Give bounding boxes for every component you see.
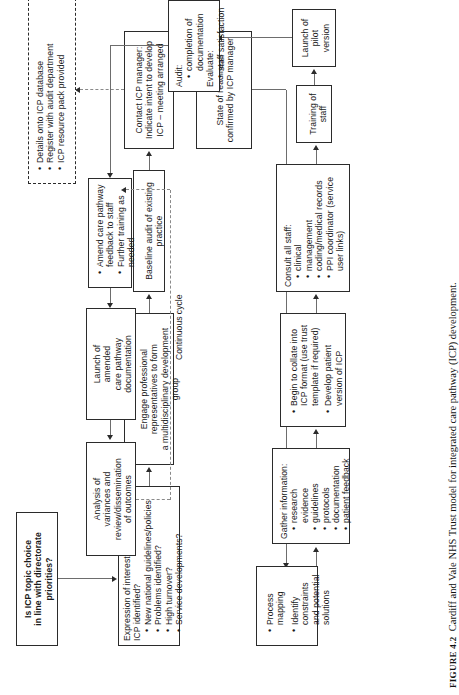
arrowhead-process-to-gather bbox=[313, 547, 319, 552]
connector-engage-to-baseline bbox=[149, 297, 150, 313]
pilot-line2: pilot bbox=[310, 14, 320, 62]
gather-bullets: research evidence guidelines protocols d… bbox=[289, 453, 351, 531]
expression-bullet-0: New national guidelines/policies bbox=[143, 491, 153, 625]
gather-heading: Gather information: bbox=[279, 453, 289, 539]
consult-heading: Consult all staff: bbox=[283, 169, 293, 287]
node-launch-amended-documentation: Launch of amended care pathway documenta… bbox=[86, 308, 136, 420]
gather-bullet-2: protocols bbox=[321, 453, 331, 523]
arrowhead-engage-to-baseline bbox=[146, 294, 152, 299]
icp-database-bullet-0: Details onto ICP database bbox=[35, 3, 45, 163]
connector-launch-amended-to-analysis bbox=[110, 420, 111, 436]
node-analysis-of-variances: Analysis of variances and review/dissemi… bbox=[86, 442, 136, 556]
connector-consult-to-training bbox=[316, 148, 317, 164]
audit-heading: Audit: bbox=[174, 5, 184, 87]
consult-bullets: clinical management coding/medical recor… bbox=[293, 169, 345, 279]
analysis-line2: variances and bbox=[102, 447, 112, 551]
node-amend-care-pathway: Amend care pathway feedback to staff Fur… bbox=[88, 178, 132, 288]
node-is-icp-topic-choice: Is ICP topic choice in line with directo… bbox=[16, 512, 58, 646]
process-mapping-bullet-1: Identify constraints and potential solut… bbox=[290, 571, 332, 625]
audit-bullets-1: completion of documentation bbox=[184, 5, 205, 79]
node-gather-information: Gather information: research evidence gu… bbox=[272, 448, 350, 544]
collate-bullets: Begin to collate into ICP format (use tr… bbox=[289, 318, 344, 414]
arrowhead-baseline-to-contact bbox=[146, 151, 152, 156]
analysis-line3: review/dissemination bbox=[113, 447, 123, 551]
arrowhead-topic-to-expression bbox=[112, 576, 117, 582]
contact-line2: Indicate intent to develop bbox=[144, 36, 154, 144]
gather-bullet-0: research evidence bbox=[289, 453, 310, 523]
figure-caption-text: FIGURE 4.2 Cardiff and Vale NHS Trust mo… bbox=[447, 282, 458, 688]
gather-bullet-4: patient feedback bbox=[341, 453, 351, 523]
node-process-mapping: Process mapping Identify constraints and… bbox=[256, 566, 318, 646]
training-text: Training of staff bbox=[308, 90, 329, 138]
engage-line1: Engage professional representatives to f… bbox=[139, 318, 160, 460]
arrowhead-consult-to-training bbox=[313, 145, 319, 150]
figure-caption-body: Cardiff and Vale NHS Trust model for int… bbox=[447, 282, 458, 631]
collate-bullet-1: Develop patient version of ICP bbox=[323, 318, 344, 406]
consult-bullet-0: clinical bbox=[293, 169, 303, 271]
flowchart: Is ICP topic choice in line with directo… bbox=[0, 0, 420, 660]
expression-bullets: New national guidelines/policies Problem… bbox=[143, 491, 185, 633]
topic-check-line3: priorities? bbox=[44, 517, 54, 641]
process-mapping-bullet-0: Process mapping bbox=[265, 571, 286, 625]
topic-check-line1: Is ICP topic choice bbox=[23, 517, 33, 641]
contact-line1: Contact ICP manager: bbox=[134, 36, 144, 144]
evaluate-bullet-satisfaction: staff satisfaction bbox=[216, 5, 226, 71]
arrowhead-training-to-pilot bbox=[311, 69, 317, 74]
figure-label: FIGURE 4.2 bbox=[448, 636, 458, 688]
expression-bullet-3: Service developments? bbox=[174, 491, 184, 625]
contact-line3: ICP – meeting arranged bbox=[155, 36, 165, 144]
consult-bullet-3: PPI coordinator (service user links) bbox=[325, 169, 346, 271]
consult-bullet-1: management bbox=[304, 169, 314, 271]
baseline-audit-text: Baseline audit of existing practice bbox=[144, 175, 165, 287]
analysis-line1: Analysis of bbox=[92, 447, 102, 551]
icp-database-bullets: Details onto ICP database Register with … bbox=[35, 3, 66, 171]
node-audit-evaluate: Audit: completion of documentation Evalu… bbox=[168, 0, 220, 92]
icp-database-bullet-2: ICP resource pack provided bbox=[56, 3, 66, 163]
gather-bullet-1: guidelines bbox=[310, 453, 320, 523]
amend-bullet-1: Further training as needed bbox=[116, 183, 137, 267]
connector-expression-to-engage bbox=[149, 470, 150, 486]
node-consult-all-staff: Consult all staff: clinical management c… bbox=[276, 164, 350, 292]
connector-audit-to-amend bbox=[110, 46, 111, 174]
consult-bullet-2: coding/medical records bbox=[314, 169, 324, 271]
evaluate-heading: Evaluate: bbox=[205, 5, 215, 87]
analysis-line4: of outcomes bbox=[123, 447, 133, 551]
node-icp-database: Details onto ICP database Register with … bbox=[28, 0, 76, 184]
arrowhead-gather-to-collate bbox=[313, 429, 319, 434]
amend-bullets: Amend care pathway feedback to staff Fur… bbox=[95, 183, 137, 275]
launch-amended-line2: amended bbox=[102, 313, 112, 415]
flowchart-canvas: Is ICP topic choice in line with directo… bbox=[0, 0, 420, 660]
connector-contact-to-database bbox=[80, 89, 124, 90]
connector-gather-to-collate bbox=[316, 432, 317, 448]
amend-bullet-0: Amend care pathway feedback to staff bbox=[95, 183, 116, 267]
connector-pilot-to-audit bbox=[222, 37, 292, 38]
audit-bullets-2: staff satisfaction bbox=[216, 5, 226, 79]
connector-collate-to-consult bbox=[316, 297, 317, 313]
connector-state-down bbox=[252, 89, 286, 90]
connector-audit-up bbox=[110, 45, 168, 46]
audit-bullet-documentation: completion of documentation bbox=[184, 5, 205, 71]
node-launch-pilot-version: Launch of pilot version bbox=[292, 9, 336, 67]
connector-topic-to-expression bbox=[58, 578, 114, 579]
cycle-loop-left bbox=[136, 499, 170, 500]
pilot-line3: version bbox=[321, 14, 331, 62]
node-contact-icp-manager: Contact ICP manager: Indicate intent to … bbox=[124, 31, 174, 149]
arrowhead-cycle-loop bbox=[121, 187, 126, 193]
connector-amend-to-launch-amended bbox=[110, 288, 111, 304]
cycle-loop-bottom bbox=[170, 190, 171, 500]
connector-process-to-gather bbox=[316, 550, 317, 566]
launch-amended-line1: Launch of bbox=[92, 313, 102, 415]
arrowhead-launch-amended-to-analysis bbox=[107, 435, 113, 440]
gather-bullet-3: documentation bbox=[331, 453, 341, 523]
launch-amended-line4: documentation bbox=[123, 313, 133, 415]
arrowhead-expression-to-engage bbox=[146, 467, 152, 472]
node-begin-to-collate: Begin to collate into ICP format (use tr… bbox=[280, 313, 346, 427]
process-mapping-bullets: Process mapping Identify constraints and… bbox=[265, 571, 331, 633]
connector-baseline-to-contact bbox=[149, 154, 150, 170]
pilot-line1: Launch of bbox=[300, 14, 310, 62]
cycle-loop-right bbox=[126, 189, 170, 190]
arrowhead-collate-to-consult bbox=[313, 294, 319, 299]
node-training-of-staff: Training of staff bbox=[296, 85, 332, 143]
topic-check-line2: in line with directorate bbox=[33, 517, 43, 641]
collate-bullet-0: Begin to collate into ICP format (use tr… bbox=[289, 318, 320, 406]
